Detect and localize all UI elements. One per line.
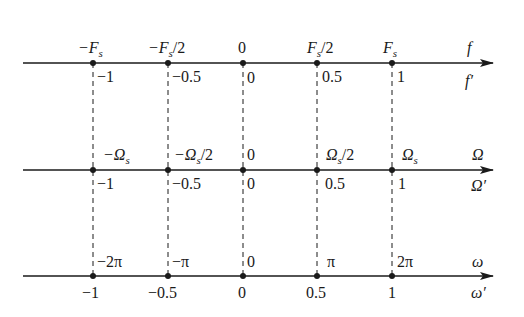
top-label: Ωs/2 (326, 146, 354, 166)
axis-name-bottom: f′ (465, 72, 473, 90)
top-label: −Ωs (103, 146, 130, 166)
top-label: −Ωs/2 (174, 146, 213, 166)
top-label: −Fs/2 (148, 39, 185, 59)
omega-axis: −2π −π 0 π 2π −1 −0.5 0 0.5 1 ω ω′ (23, 253, 493, 301)
top-label: 0 (247, 253, 255, 270)
bottom-label: −1 (82, 284, 99, 301)
axis-name-top: ω (472, 253, 483, 270)
tick-dot (165, 60, 171, 66)
bottom-label: 1 (397, 68, 405, 85)
tick-dot (165, 167, 171, 173)
tick-dot (314, 60, 320, 66)
bottom-label: 0.5 (322, 68, 342, 85)
tick-dot (90, 273, 96, 279)
top-label: −2π (97, 253, 122, 270)
tick-dot (240, 60, 246, 66)
top-label: 2π (397, 253, 413, 270)
axis-name-bottom: Ω′ (471, 177, 487, 194)
tick-dot (389, 273, 395, 279)
tick-dot (314, 167, 320, 173)
bottom-label: 0.5 (325, 175, 345, 192)
tick-dot (165, 273, 171, 279)
tick-dot (389, 167, 395, 173)
tick-dot (240, 167, 246, 173)
tick-dot (90, 167, 96, 173)
tick-dot (240, 273, 246, 279)
axis-name-top: Ω (472, 146, 484, 163)
bottom-label: 1 (398, 175, 406, 192)
tick-dot (90, 60, 96, 66)
top-label: −Fs (78, 39, 103, 59)
bottom-label: −0.5 (172, 68, 201, 85)
top-label: Fs/2 (306, 39, 334, 59)
top-label: 0 (238, 39, 246, 56)
top-label: 0 (247, 146, 255, 163)
top-label: −π (172, 253, 189, 270)
bottom-label: −1 (97, 68, 114, 85)
bottom-label: 0.5 (306, 284, 326, 301)
bottom-label: 0 (247, 175, 255, 192)
tick-dot (389, 60, 395, 66)
bottom-label: 0 (238, 284, 246, 301)
axis-name-top: f (467, 39, 474, 57)
top-label: Fs (382, 39, 397, 59)
bottom-label: −0.5 (172, 175, 201, 192)
bottom-label: −0.5 (148, 284, 177, 301)
top-label: π (327, 253, 335, 270)
top-label: Ωs (402, 146, 418, 166)
frequency-axes-diagram: −Fs −Fs/2 0 Fs/2 Fs −1 −0.5 0 0.5 1 f f′… (0, 0, 524, 317)
bottom-label: 0 (247, 69, 255, 86)
tick-dot (314, 273, 320, 279)
bottom-label: −1 (97, 175, 114, 192)
axis-name-bottom: ω′ (471, 284, 486, 301)
bottom-label: 1 (388, 284, 396, 301)
